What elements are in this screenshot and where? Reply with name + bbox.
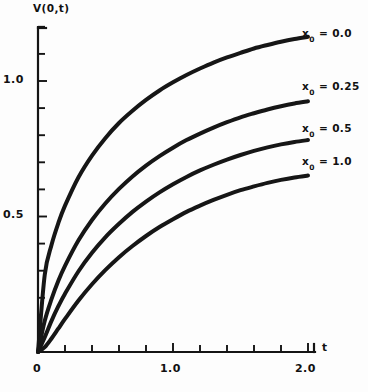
curve-series-3 — [38, 176, 308, 352]
curve-series-1 — [38, 101, 308, 352]
curve-group — [38, 37, 308, 352]
y-axis-title: V(0,t) — [33, 2, 69, 14]
y-tick-label-1: 1.0 — [3, 73, 24, 86]
curve-label-value: = 0.25 — [319, 80, 360, 92]
y-tick-label-0-5: 0.5 — [3, 208, 24, 221]
curve-label-subscript: 0 — [309, 88, 315, 97]
axes-group — [38, 27, 315, 352]
curve-label-value: = 0.0 — [319, 27, 352, 39]
curve-label-subscript: 0 — [309, 35, 315, 44]
curve-label-subscript: 0 — [309, 163, 315, 172]
x-tick-group — [65, 343, 308, 352]
plot-area — [0, 0, 368, 392]
curve-label-x0-0-25: x0 = 0.25 — [302, 80, 360, 95]
curve-label-x0-0: x0 = 0.0 — [302, 27, 352, 42]
x-tick-label-0: 0 — [33, 362, 41, 375]
curve-series-2 — [38, 140, 308, 352]
chart-figure: V(0,t) 1.0 0.5 0 1.0 2.0 t x0 = 0.0 x0 =… — [0, 0, 368, 392]
curve-label-value: = 1.0 — [319, 155, 352, 167]
x-axis-title: t — [322, 341, 327, 353]
curve-label-value: = 0.5 — [319, 122, 352, 134]
curve-label-subscript: 0 — [309, 130, 315, 139]
x-tick-label-2: 2.0 — [295, 362, 316, 375]
curve-label-x0-1-0: x0 = 1.0 — [302, 155, 352, 170]
curve-label-x0-0-5: x0 = 0.5 — [302, 122, 352, 137]
curve-series-0 — [38, 37, 308, 352]
x-tick-label-1: 1.0 — [160, 362, 181, 375]
